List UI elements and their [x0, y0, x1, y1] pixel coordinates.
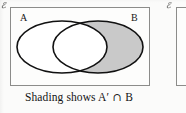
venn-panel-primary: ℰ — [0, 0, 158, 113]
venn-diagram-graphic — [11, 8, 149, 85]
universal-set-symbol-secondary: ℰ — [166, 1, 171, 9]
caption-set-b: B — [125, 91, 133, 103]
caption-prefix: Shading shows — [25, 91, 98, 103]
universal-set-rectangle-secondary — [176, 7, 186, 86]
figure-caption: Shading shows A′ ∩ B — [0, 91, 158, 104]
shaded-region-a-complement-intersect-b — [11, 8, 149, 85]
venn-panel-secondary-clipped: ℰ — [158, 0, 186, 113]
universal-set-symbol: ℰ — [1, 1, 6, 9]
caption-prime-symbol: ′ — [106, 91, 109, 103]
intersection-operator: ∩ — [112, 91, 122, 104]
set-b-label: B — [131, 13, 138, 23]
universal-set-rectangle — [10, 7, 150, 86]
set-a-label: A — [20, 13, 27, 23]
figure-page: ℰ — [0, 0, 186, 113]
